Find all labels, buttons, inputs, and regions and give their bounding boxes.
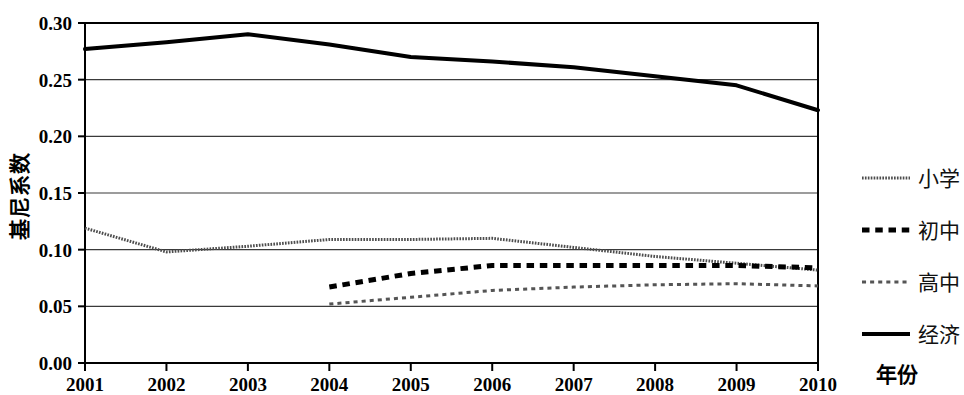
x-tick-label: 2001 — [66, 374, 104, 395]
y-axis-title: 基尼系数 — [8, 152, 32, 240]
y-tick-label: 0.10 — [39, 240, 72, 261]
x-tick-label: 2007 — [555, 374, 594, 395]
legend-label-2: 高中 — [918, 271, 960, 295]
x-tick-label: 2006 — [473, 374, 511, 395]
x-tick-label: 2010 — [799, 374, 837, 395]
y-tick-label: 0.15 — [39, 183, 72, 204]
y-tick-label: 0.30 — [39, 13, 72, 34]
y-tick-label: 0.25 — [39, 70, 72, 91]
x-tick-label: 2003 — [229, 374, 267, 395]
legend-label-0: 小学 — [918, 167, 960, 191]
x-tick-label: 2002 — [147, 374, 185, 395]
legend-label-1: 初中 — [918, 219, 960, 243]
legend-label-3: 经济 — [918, 323, 960, 347]
y-tick-label: 0.00 — [39, 353, 72, 374]
x-tick-label: 2004 — [310, 374, 349, 395]
x-tick-label: 2005 — [392, 374, 430, 395]
gini-coefficient-line-chart: 基尼系数 年份 0.000.050.100.150.200.250.30 200… — [0, 0, 964, 395]
x-tick-label: 2009 — [718, 374, 756, 395]
x-tick-label: 2008 — [636, 374, 674, 395]
y-tick-label: 0.20 — [39, 126, 72, 147]
y-tick-label: 0.05 — [39, 296, 72, 317]
chart-container: 基尼系数 年份 0.000.050.100.150.200.250.30 200… — [0, 0, 964, 395]
x-axis-title: 年份 — [876, 363, 919, 387]
